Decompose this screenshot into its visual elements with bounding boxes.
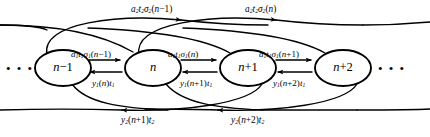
node-label-n-minus-1: n−1 (41, 61, 85, 74)
backward-label-1: y1(n)t1 (92, 79, 115, 89)
top-arc-2-label: a2t2σ2(n) (245, 5, 276, 15)
bottom-arc-1-label: y2(n+1)t2 (121, 116, 154, 126)
forward-label-1: a1t1σ1(n−1) (71, 50, 111, 60)
forward-label-2: a1t1σ1(n) (168, 50, 198, 60)
bottom-arc-from-n-minus-1 (72, 84, 168, 110)
forward-label-3: a1t1σ1(n+1) (259, 50, 299, 60)
backward-label-3: y1(n+2)t1 (273, 79, 305, 89)
right-continuation-dots: • • • (378, 62, 406, 75)
diagram-canvas: • • • • • • n−1 n n+1 n+2 a2t2σ2(n−1) a2… (0, 0, 430, 137)
left-continuation-dots: • • • (6, 62, 34, 75)
node-label-n-plus-2: n+2 (321, 61, 365, 74)
top-arc-right-continuation (363, 22, 430, 25)
bottom-arc-2-label: y2(n+2)t2 (231, 116, 264, 126)
top-arc-2-tail (276, 20, 363, 25)
node-label-n-plus-1: n+1 (226, 61, 270, 74)
top-arc-into-n-plus-2 (183, 28, 325, 53)
bottom-arc-right-continuation (357, 109, 430, 110)
top-arc-1-label: a2t2σ2(n−1) (131, 5, 172, 15)
node-label-n: n (131, 61, 175, 74)
backward-label-2: y1(n+1)t1 (180, 79, 212, 89)
bottom-arc-1-tail (0, 109, 122, 110)
